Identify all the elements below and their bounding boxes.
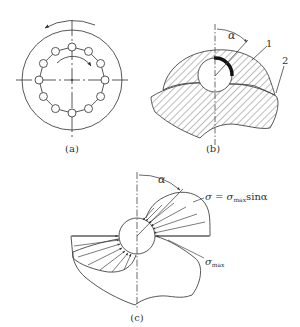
part-label-2: 2 — [282, 55, 288, 66]
diagram-canvas: (a) α 1 2 (b) — [0, 0, 300, 327]
panel-b — [151, 24, 284, 145]
angle-label-b: α — [228, 29, 236, 42]
formula-label: σ = σmaxsinα — [205, 191, 268, 203]
caption-c: (c) — [130, 312, 144, 323]
sigma-max-label: σmax — [205, 256, 225, 268]
rotation-arrow-inner — [57, 56, 91, 66]
leader-1 — [252, 46, 267, 60]
stress-envelope-upper — [146, 192, 210, 236]
leader-2 — [276, 66, 284, 93]
angle-label-c: α — [158, 173, 166, 186]
part-label-1: 1 — [266, 38, 272, 49]
panel-c — [71, 172, 210, 308]
caption-b: (b) — [206, 143, 220, 154]
caption-a: (a) — [65, 143, 79, 154]
panel-a — [16, 20, 130, 138]
rotation-arrow-outer — [45, 20, 95, 28]
leader-sigma-max — [168, 240, 204, 258]
